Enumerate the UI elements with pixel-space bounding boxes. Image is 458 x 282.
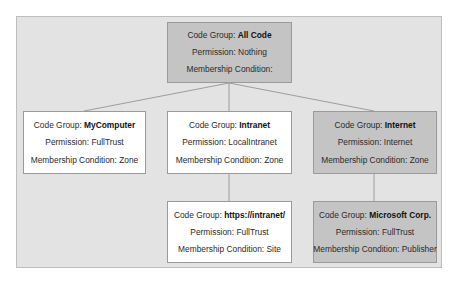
code-group-line: Code Group: Internet [335,120,416,130]
membership-condition-line: Membership Condition: [186,64,272,74]
node-mycomputer: Code Group: MyComputer Permission: FullT… [23,111,146,174]
node-intranet: Code Group: Intranet Permission: LocalIn… [167,111,292,174]
code-group-value: Intranet [239,120,270,130]
permission-line: Permission: LocalIntranet [182,137,277,147]
code-group-line: Code Group: Microsoft Corp. [319,210,431,220]
membership-condition-line: Membership Condition: Zone [176,155,284,165]
permission-line: Permission: FullTrust [45,137,123,147]
permission-line: Permission: FullTrust [190,227,268,237]
code-group-value: All Code [238,30,272,40]
code-group-value: Internet [385,120,416,130]
membership-condition-line: Membership Condition: Site [178,244,281,254]
code-group-line: Code Group: All Code [187,30,271,40]
membership-condition-line: Membership Condition: Zone [31,155,139,165]
membership-condition-line: Membership Condition: Zone [321,155,429,165]
code-group-label: Code Group: [335,120,385,130]
code-group-value: Microsoft Corp. [369,210,431,220]
node-microsoft-corp: Code Group: Microsoft Corp. Permission: … [313,201,437,263]
code-group-line: Code Group: MyComputer [34,120,135,130]
code-group-value: https://intranet/ [224,210,285,220]
node-internet: Code Group: Internet Permission: Interne… [313,111,437,174]
code-group-label: Code Group: [189,120,239,130]
code-group-label: Code Group: [34,120,84,130]
membership-condition-line: Membership Condition: Publisher [313,244,436,254]
permission-line: Permission: FullTrust [336,227,414,237]
code-group-line: Code Group: https://intranet/ [174,210,285,220]
node-https-intranet: Code Group: https://intranet/ Permission… [167,201,292,263]
permission-line: Permission: Nothing [192,47,267,57]
code-group-label: Code Group: [319,210,369,220]
permission-line: Permission: Internet [338,137,412,147]
code-group-value: MyComputer [84,120,135,130]
code-group-label: Code Group: [174,210,224,220]
node-all-code: Code Group: All Code Permission: Nothing… [167,22,292,83]
code-group-line: Code Group: Intranet [189,120,270,130]
code-group-label: Code Group: [187,30,237,40]
